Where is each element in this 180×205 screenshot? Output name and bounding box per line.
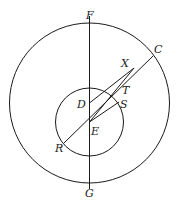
line-ES <box>90 102 120 122</box>
label-C: C <box>154 43 163 56</box>
label-D: D <box>76 98 86 111</box>
label-E: E <box>90 125 99 138</box>
diagram-canvas: F G C X T S D E R <box>0 0 180 205</box>
geometry-diagram: F G C X T S D E R <box>0 0 180 205</box>
label-F: F <box>85 9 94 22</box>
label-T: T <box>122 84 131 97</box>
label-X: X <box>120 57 130 70</box>
label-G: G <box>85 187 94 200</box>
label-S: S <box>120 98 128 111</box>
label-R: R <box>54 142 63 155</box>
